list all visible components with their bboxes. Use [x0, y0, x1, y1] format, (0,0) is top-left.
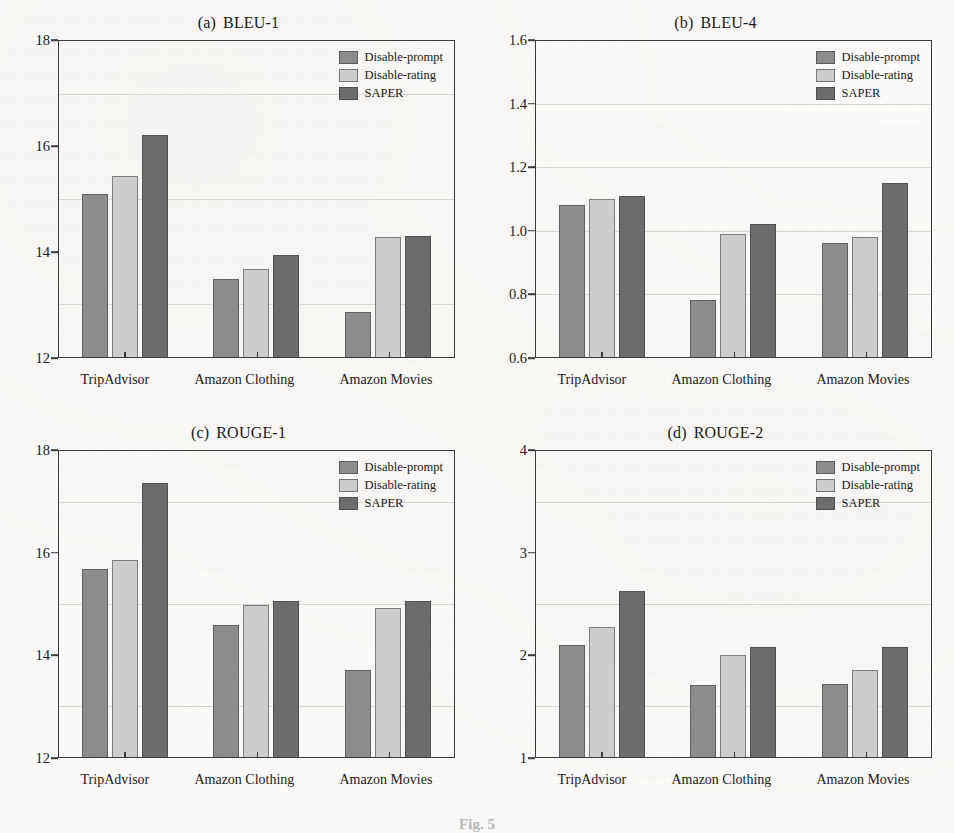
legend-label: SAPER: [842, 496, 881, 511]
bar[interactable]: [345, 670, 371, 757]
y-tick-mark: [51, 655, 58, 657]
bar[interactable]: [559, 645, 585, 757]
bar[interactable]: [273, 601, 299, 757]
legend-swatch-icon: [816, 479, 835, 492]
x-tick-marks: [58, 352, 455, 358]
y-tick-label: 1: [520, 750, 527, 767]
y-tick-mark: [51, 357, 58, 359]
legend-item[interactable]: Disable-prompt: [816, 460, 920, 475]
legend-label: Disable-prompt: [842, 50, 920, 65]
x-tick-label: TripAdvisor: [558, 772, 627, 788]
x-tick-label: Amazon Clothing: [194, 372, 294, 388]
x-tick-label: Amazon Movies: [339, 372, 432, 388]
y-tick-mark: [528, 294, 535, 296]
bar[interactable]: [345, 312, 371, 357]
bar[interactable]: [882, 647, 908, 757]
bar[interactable]: [112, 176, 138, 357]
bar[interactable]: [720, 655, 746, 757]
legend-item[interactable]: SAPER: [339, 86, 443, 101]
y-tick-mark: [528, 449, 535, 451]
bar[interactable]: [112, 560, 138, 757]
bar[interactable]: [822, 243, 848, 357]
bar[interactable]: [882, 183, 908, 357]
legend-label: Disable-prompt: [365, 50, 443, 65]
bar[interactable]: [375, 608, 401, 757]
x-tick-mark: [601, 752, 602, 757]
y-tick-mark: [51, 39, 58, 41]
legend-item[interactable]: Disable-rating: [816, 478, 920, 493]
bar[interactable]: [405, 236, 431, 357]
bar[interactable]: [243, 269, 269, 357]
y-tick-label: 0.6: [509, 350, 527, 367]
x-tick-mark: [389, 352, 390, 357]
bar[interactable]: [213, 625, 239, 757]
legend-item[interactable]: Disable-rating: [339, 68, 443, 83]
bar[interactable]: [852, 670, 878, 757]
legend-item[interactable]: SAPER: [816, 86, 920, 101]
bar[interactable]: [142, 483, 168, 757]
bar[interactable]: [142, 135, 168, 357]
bar[interactable]: [750, 647, 776, 757]
bar[interactable]: [720, 234, 746, 357]
legend-item[interactable]: Disable-prompt: [339, 50, 443, 65]
bar[interactable]: [375, 237, 401, 357]
y-tick-mark: [51, 251, 58, 253]
x-tick-mark: [124, 352, 125, 357]
bar[interactable]: [559, 205, 585, 357]
bar[interactable]: [619, 196, 645, 357]
x-tick-mark: [389, 752, 390, 757]
bar[interactable]: [589, 199, 615, 357]
figure-caption: Fig. 5: [0, 816, 954, 833]
x-tick-label: Amazon Movies: [816, 372, 909, 388]
y-tick-label: 14: [36, 244, 51, 261]
legend-item[interactable]: SAPER: [816, 496, 920, 511]
legend-swatch-icon: [339, 497, 358, 510]
legend-item[interactable]: Disable-rating: [816, 68, 920, 83]
bar[interactable]: [690, 685, 716, 757]
bar[interactable]: [589, 627, 615, 757]
y-tick-label: 3: [520, 544, 527, 561]
bar[interactable]: [750, 224, 776, 357]
legend-item[interactable]: Disable-prompt: [816, 50, 920, 65]
bar[interactable]: [82, 569, 108, 757]
bar[interactable]: [619, 591, 645, 757]
x-tick-label: Amazon Movies: [816, 772, 909, 788]
panel-label: (a): [198, 14, 216, 31]
panel-title: (b)BLEU-4: [477, 14, 954, 32]
bar[interactable]: [243, 605, 269, 757]
x-tick-mark: [124, 752, 125, 757]
x-tick-marks: [58, 752, 455, 758]
y-tick-mark: [51, 757, 58, 759]
legend-swatch-icon: [339, 479, 358, 492]
y-axis: 12141618: [0, 450, 58, 758]
x-tick-label: TripAdvisor: [558, 372, 627, 388]
y-tick-mark: [528, 757, 535, 759]
panel-label: (c): [191, 424, 209, 441]
y-tick-label: 1.4: [509, 95, 527, 112]
y-tick-label: 2: [520, 647, 527, 664]
x-tick-mark: [734, 752, 735, 757]
legend-label: Disable-rating: [365, 478, 437, 493]
legend-item[interactable]: Disable-prompt: [339, 460, 443, 475]
bar[interactable]: [213, 279, 239, 357]
bar-group: [82, 451, 168, 757]
legend-item[interactable]: Disable-rating: [339, 478, 443, 493]
legend-item[interactable]: SAPER: [339, 496, 443, 511]
bar[interactable]: [82, 194, 108, 357]
legend-label: SAPER: [365, 496, 404, 511]
bar[interactable]: [405, 601, 431, 757]
bar[interactable]: [822, 684, 848, 757]
x-tick-mark: [601, 352, 602, 357]
bar[interactable]: [273, 255, 299, 357]
legend: Disable-promptDisable-ratingSAPER: [816, 460, 920, 511]
y-tick-label: 0.8: [509, 286, 527, 303]
legend: Disable-promptDisable-ratingSAPER: [816, 50, 920, 101]
chart-panel-bleu-4: (b)BLEU-40.60.81.01.21.41.6TripAdvisorAm…: [477, 0, 954, 410]
y-tick-mark: [528, 552, 535, 554]
panel-title: (d)ROUGE-2: [477, 424, 954, 442]
y-tick-label: 14: [36, 647, 51, 664]
bar[interactable]: [852, 237, 878, 357]
legend-label: Disable-prompt: [842, 460, 920, 475]
bar[interactable]: [690, 300, 716, 357]
